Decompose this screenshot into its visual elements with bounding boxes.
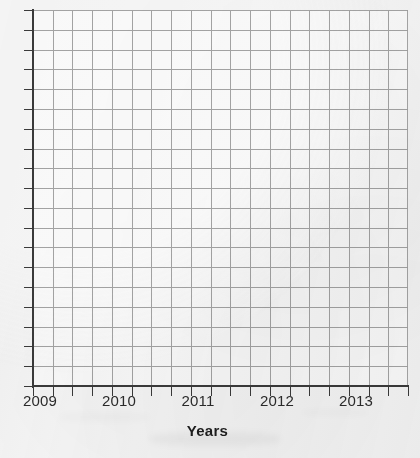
y-axis-tick [24,69,33,70]
x-axis-tick [250,387,251,396]
y-axis-tick [24,168,33,169]
y-axis-tick [24,307,33,308]
x-axis-tick [171,387,172,396]
x-axis-title: Years [0,422,420,439]
x-axis-line [32,385,409,387]
y-axis-tick [24,386,33,387]
y-axis-tick [24,10,33,11]
x-axis-tick [92,387,93,396]
x-axis-tick-label: 2013 [339,392,373,409]
x-axis-tick [151,387,152,396]
y-axis-tick [24,346,33,347]
y-axis-tick [24,149,33,150]
y-axis-tick [24,129,33,130]
scan-smudge [300,408,370,417]
y-axis-tick [24,109,33,110]
x-axis-tick-label: 2012 [260,392,294,409]
y-axis-tick [24,327,33,328]
chart-container: 20092010201120122013 Years [0,0,420,458]
x-axis-tick [309,387,310,396]
y-axis-tick [24,366,33,367]
y-axis-tick [24,228,33,229]
y-axis-tick [24,89,33,90]
x-axis-tick [388,387,389,396]
x-axis-tick [329,387,330,396]
y-axis-tick [24,287,33,288]
y-axis-tick [24,267,33,268]
x-axis-tick-label: 2010 [102,392,136,409]
x-axis-tick [72,387,73,396]
y-axis-tick [24,188,33,189]
grid-right-edge [407,10,408,386]
x-axis-tick-label: 2009 [23,392,57,409]
y-axis-tick [24,30,33,31]
y-axis-tick [24,208,33,209]
y-axis-tick [24,247,33,248]
grid-lines [33,10,408,386]
x-axis-tick [230,387,231,396]
plot-area [33,10,408,386]
x-axis-tick-label: 2011 [181,392,214,409]
y-axis-line [32,9,34,388]
x-axis-tick [408,387,409,396]
y-axis-tick [24,50,33,51]
x-axis-title-text: Years [187,422,229,439]
scan-smudge [60,412,150,422]
